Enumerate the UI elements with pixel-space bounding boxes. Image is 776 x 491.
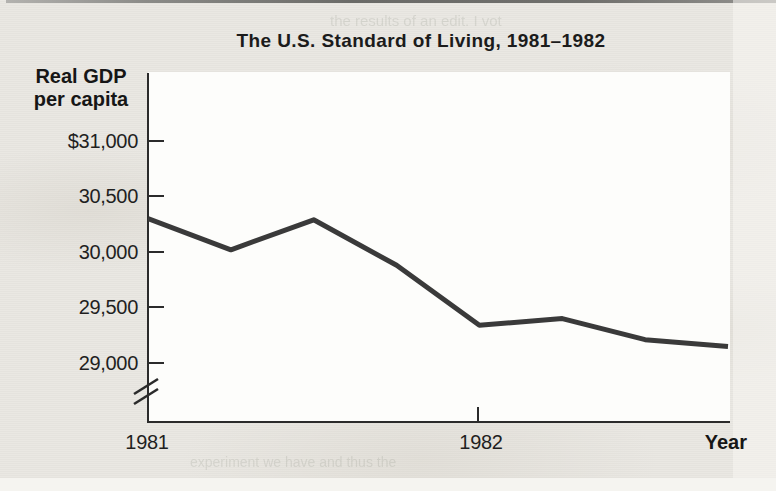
chart-title: The U.S. Standard of Living, 1981–1982	[100, 30, 742, 52]
page-top-edge	[6, 0, 776, 3]
page-right-margin	[733, 0, 776, 491]
page-bottom-margin	[0, 478, 776, 491]
y-tick-label: 30,000	[20, 241, 138, 264]
y-axis-title: Real GDP per capita	[22, 65, 140, 111]
x-axis-title: Year	[657, 431, 747, 454]
bleedthrough-text: the results of an edit. I vot	[330, 10, 502, 31]
y-tick-label: 29,000	[20, 352, 138, 375]
y-tick-label: 30,500	[20, 185, 138, 208]
y-axis-title-line1: Real GDP	[22, 65, 140, 88]
y-axis-title-line2: per capita	[22, 88, 140, 111]
bleedthrough-text: experiment we have and thus the	[190, 452, 396, 473]
y-tick-label: 29,500	[20, 296, 138, 319]
scanned-textbook-page: the results of an edit. I vot average ‘C…	[0, 0, 776, 491]
chart-canvas	[148, 72, 730, 423]
y-tick-label: $31,000	[20, 130, 138, 153]
gdp-per-capita-line	[148, 219, 728, 347]
x-tick-label-1981: 1981	[102, 431, 192, 454]
x-tick-label-1982: 1982	[436, 431, 526, 454]
